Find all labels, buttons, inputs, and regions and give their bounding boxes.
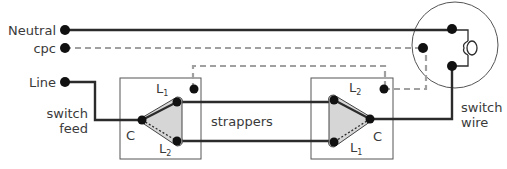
switch-1-l2-terminal xyxy=(173,137,182,146)
wiring-diagram: Neutral cpc Line switch feed strappers s… xyxy=(0,0,507,169)
rose-neutral-terminal xyxy=(447,24,457,34)
switch-feed-label-2: feed xyxy=(59,121,88,136)
switch-2-l2-terminal xyxy=(330,96,339,105)
switch-2-cpc-terminal xyxy=(380,85,389,94)
cpc-label: cpc xyxy=(33,41,56,56)
cpc-terminal xyxy=(60,43,70,53)
neutral-label: Neutral xyxy=(8,23,56,38)
switch-1-common-terminal xyxy=(138,116,147,125)
rose-switch-wire-terminal xyxy=(447,61,457,71)
rose-cpc-terminal xyxy=(418,43,428,53)
switch-2-l1-terminal xyxy=(330,138,339,147)
switch-2-common-label: C xyxy=(373,129,382,144)
switch-1-l1-terminal xyxy=(173,98,182,107)
lamp-icon xyxy=(452,30,477,66)
neutral-terminal xyxy=(60,25,70,35)
switch-1-cpc-terminal xyxy=(190,85,199,94)
strappers-label: strappers xyxy=(211,114,273,129)
switch-wire-label-1: switch xyxy=(461,100,503,115)
line-label: Line xyxy=(29,75,56,90)
switch-1-common-label: C xyxy=(126,128,135,143)
switch-2-common-terminal xyxy=(366,115,375,124)
line-terminal xyxy=(60,77,70,87)
switch-feed-label-1: switch xyxy=(46,106,88,121)
switch-wire-label-2: wire xyxy=(461,115,488,130)
